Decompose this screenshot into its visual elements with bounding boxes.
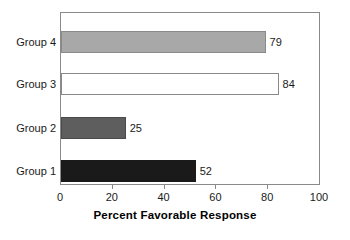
bar-row: 25 (61, 117, 320, 139)
y-axis-label-text: Group 4 (16, 36, 56, 48)
bar-value-label: 79 (266, 37, 282, 48)
y-axis-label-text: Group 3 (16, 78, 56, 90)
bar-row: 84 (61, 73, 320, 95)
bar (61, 73, 279, 95)
bar-row: 52 (61, 160, 320, 182)
x-tick-label: 0 (57, 192, 63, 203)
bars-layer: 79842552 (61, 13, 320, 184)
bar-value-label: 52 (196, 166, 212, 177)
bar-value-label: 84 (279, 79, 295, 90)
x-tick-mark (164, 185, 165, 189)
bar (61, 117, 126, 139)
x-tick-label: 80 (261, 192, 273, 203)
x-tick-mark (112, 185, 113, 189)
bar-row: 79 (61, 31, 320, 53)
y-axis-label-group-1: Group 1 (16, 160, 56, 182)
bar (61, 160, 196, 182)
x-tick-mark (267, 185, 268, 189)
x-tick-label: 100 (310, 192, 328, 203)
y-axis-label-group-3: Group 3 (16, 73, 56, 95)
y-axis-label-group-2: Group 2 (16, 117, 56, 139)
x-axis-title: Percent Favorable Response (0, 210, 350, 222)
bar (61, 31, 266, 53)
y-axis-label-group-4: Group 4 (16, 31, 56, 53)
bar-chart: Group 4Group 3Group 2Group 1 79842552 02… (0, 0, 350, 240)
bar-value-label: 25 (126, 123, 142, 134)
y-axis-label-text: Group 2 (16, 122, 56, 134)
x-tick-label: 40 (157, 192, 169, 203)
x-tick-label: 20 (106, 192, 118, 203)
x-tick-mark (215, 185, 216, 189)
y-axis-label-text: Group 1 (16, 165, 56, 177)
x-tick-label: 60 (209, 192, 221, 203)
